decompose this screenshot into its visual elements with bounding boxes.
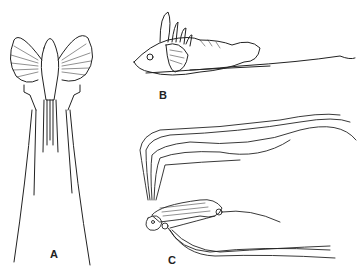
- panel-label-a: A: [50, 248, 58, 260]
- panel-label-c: C: [168, 254, 176, 266]
- panel-label-b: B: [159, 89, 167, 101]
- panel-b-drawing: [134, 12, 355, 75]
- panel-a-drawing: [10, 36, 92, 265]
- illustration: [0, 0, 364, 275]
- panel-c-drawing: [140, 114, 356, 258]
